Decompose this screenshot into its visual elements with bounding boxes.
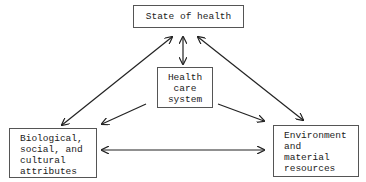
- arrow-care-bio: [102, 104, 146, 124]
- node-environment-resources: Environment and material resources: [273, 125, 359, 177]
- node-label: attributes: [20, 166, 96, 177]
- node-label: Biological,: [20, 133, 96, 144]
- node-label: material: [284, 152, 358, 163]
- node-label: social, and: [20, 144, 96, 155]
- node-label: resources: [284, 163, 358, 174]
- node-label: care: [158, 83, 212, 94]
- node-label: cultural: [20, 155, 96, 166]
- node-health-care-system: Health care system: [157, 67, 213, 108]
- node-state-of-health: State of health: [133, 5, 244, 28]
- node-label: State of health: [134, 11, 243, 22]
- node-label: and: [284, 141, 358, 152]
- node-label: Health: [158, 72, 212, 83]
- arrow-env-state: [198, 37, 303, 120]
- arrow-care-env: [218, 104, 264, 121]
- node-biological-attributes: Biological, social, and cultural attribu…: [9, 128, 97, 178]
- arrow-bio-state: [62, 37, 172, 125]
- node-label: Environment: [284, 130, 358, 141]
- node-label: system: [158, 94, 212, 105]
